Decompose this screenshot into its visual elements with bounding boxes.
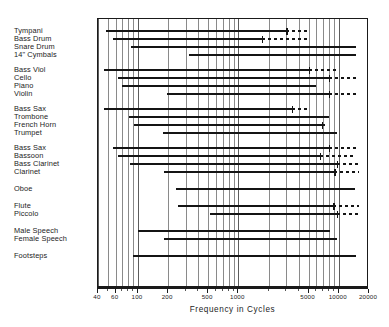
chart-container: TympaniBass DrumSnare Drum14" CymbalsBas…	[0, 0, 389, 327]
axis-tick-label: 100	[131, 294, 142, 300]
x-axis: 4060100200500100050001000020000 Frequenc…	[97, 287, 368, 327]
row-label: Trumpet	[14, 129, 42, 136]
range-bar	[163, 132, 337, 134]
range-bar	[113, 38, 262, 40]
axis-tick-minor	[285, 289, 286, 292]
range-bar-extension	[329, 93, 359, 95]
range-bar	[176, 188, 355, 190]
axis-tick-minor	[222, 289, 223, 292]
axis-tick-minor	[233, 289, 234, 292]
range-bar-cap	[262, 36, 263, 43]
range-bar	[122, 85, 316, 87]
range-bar-cap	[329, 145, 330, 152]
range-bar	[104, 108, 292, 110]
range-bar	[129, 116, 329, 118]
range-bar-cap	[337, 161, 338, 168]
row-label: 14" Cymbals	[14, 51, 57, 58]
axis-tick-minor	[132, 289, 133, 292]
plot-area	[97, 18, 368, 287]
range-bar	[131, 46, 356, 48]
axis-tick	[137, 289, 138, 293]
range-bar	[130, 163, 337, 165]
range-bar	[118, 77, 329, 79]
range-bar	[167, 93, 329, 95]
axis-tick-minor	[315, 289, 316, 292]
range-bar	[106, 30, 286, 32]
axis-tick-label: 40	[93, 294, 100, 300]
axis-tick-minor	[328, 289, 329, 292]
axis-tick-minor	[322, 289, 323, 292]
range-bar-cap	[337, 211, 338, 218]
range-bar	[164, 238, 337, 240]
range-bar-extension	[309, 69, 337, 71]
range-bar	[164, 171, 335, 173]
axis-tick-minor	[185, 289, 186, 292]
axis-tick-label: 5000	[300, 294, 315, 300]
range-bar	[189, 54, 357, 56]
range-bar-cap	[329, 75, 330, 82]
axis-tick	[308, 289, 309, 293]
axis-tick-minor	[228, 289, 229, 292]
range-bar-cap	[309, 67, 310, 74]
row-label: Clarinet	[14, 168, 40, 175]
range-bar	[210, 213, 337, 215]
x-axis-title: Frequency in Cycles	[97, 305, 368, 314]
range-bar-extension	[329, 77, 359, 79]
range-bar-extension	[286, 30, 308, 32]
axis-tick-minor	[127, 289, 128, 292]
range-bar-cap	[322, 122, 323, 129]
range-bar	[134, 124, 322, 126]
range-bar-cap	[292, 106, 293, 113]
axis-tick-minor	[298, 289, 299, 292]
axis-tick-label: 500	[202, 294, 213, 300]
axis-tick-minor	[107, 289, 108, 292]
range-bar	[138, 230, 330, 232]
range-bar-cap	[334, 169, 335, 176]
axis-tick-minor	[333, 289, 334, 292]
range-bar-cap	[333, 203, 334, 210]
axis-tick	[167, 289, 168, 293]
range-bar-extension	[337, 213, 359, 215]
axis-tick	[115, 289, 116, 293]
range-bar	[113, 147, 329, 149]
row-label: Female Speech	[14, 235, 67, 242]
axis-tick	[207, 289, 208, 293]
row-label: Footsteps	[14, 252, 47, 259]
axis-tick-label: 60	[111, 294, 118, 300]
axis-tick	[97, 289, 98, 293]
axis-tick-label: 1000	[230, 294, 245, 300]
axis-tick	[338, 289, 339, 293]
range-bar-cap	[320, 153, 321, 160]
row-label: Violin	[14, 90, 33, 97]
range-bar-extension	[334, 171, 359, 173]
range-bar	[133, 255, 356, 257]
axis-tick-minor	[121, 289, 122, 292]
range-bar-cap	[329, 91, 330, 98]
row-label-column: TympaniBass DrumSnare Drum14" CymbalsBas…	[14, 18, 94, 287]
axis-tick-label: 200	[162, 294, 173, 300]
range-bar-extension	[292, 108, 311, 110]
range-bar-extension	[337, 163, 359, 165]
axis-tick-label: 10000	[329, 294, 347, 300]
range-bar-cap	[286, 28, 287, 35]
range-bar-extension	[262, 38, 309, 40]
range-bar-extension	[333, 205, 359, 207]
row-label: Oboe	[14, 185, 32, 192]
range-bar	[178, 205, 333, 207]
axis-tick	[237, 289, 238, 293]
row-label: Piccolo	[14, 210, 39, 217]
range-bar	[118, 155, 319, 157]
range-bar-extension	[320, 155, 356, 157]
axis-tick	[368, 289, 369, 293]
range-bar-extension	[329, 147, 359, 149]
range-bar	[104, 69, 308, 71]
axis-tick-minor	[215, 289, 216, 292]
axis-tick-minor	[268, 289, 269, 292]
axis-tick-minor	[197, 289, 198, 292]
range-bars	[98, 19, 367, 286]
axis-tick-label: 20000	[359, 294, 377, 300]
